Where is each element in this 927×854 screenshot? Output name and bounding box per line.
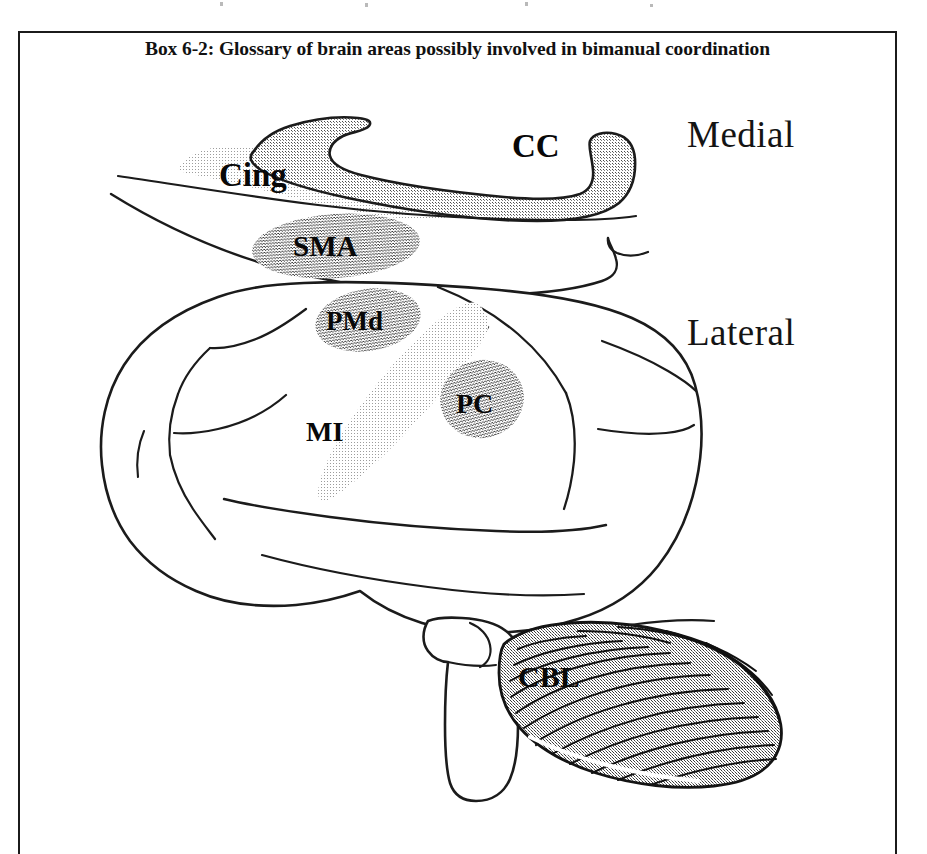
region-cc [251, 117, 635, 221]
cerebellum-brainstem-group: CBL [424, 618, 782, 801]
region-label-cbl: CBL [518, 660, 580, 693]
region-label-pc: PC [456, 388, 493, 419]
region-label-sma: SMA [293, 230, 358, 262]
lateral-view-group: PMd MI PC [101, 281, 702, 633]
region-label-mi: MI [306, 416, 343, 447]
tentorium-line [630, 620, 714, 625]
medial-view-group: CC Cing SMA [111, 117, 648, 295]
scan-artifact-speckles [180, 2, 740, 8]
region-label-pmd: PMd [326, 306, 383, 336]
figure-root: Box 6-2: Glossary of brain areas possibl… [0, 0, 927, 854]
region-label-cc: CC [512, 128, 560, 164]
region-label-cing: Cing [219, 157, 287, 193]
brain-diagram: CC Cing SMA [18, 31, 897, 854]
region-cbl [499, 622, 781, 787]
